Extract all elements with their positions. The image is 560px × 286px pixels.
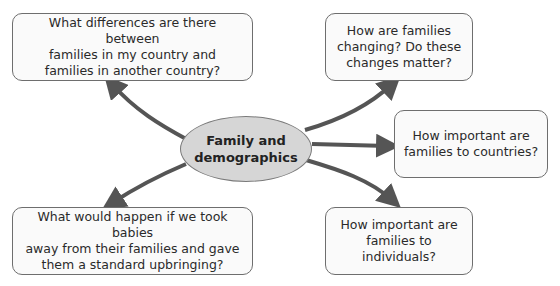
node-text-line: How important are: [334, 217, 464, 233]
node-text-line: changes matter?: [337, 55, 461, 71]
center-label-line2: demographics: [194, 149, 298, 166]
node-top-left: What differences are there between famil…: [12, 13, 253, 81]
node-text-line: What differences are there between: [21, 15, 244, 47]
node-text-line: families in another country?: [21, 63, 244, 79]
node-text-line: How are families: [337, 23, 461, 39]
arrow-to-bottom-right: [306, 160, 392, 200]
arrow-to-bottom-left: [112, 164, 186, 203]
node-text-line: families to individuals?: [334, 233, 464, 265]
node-text-line: away from their families and gave: [21, 241, 244, 257]
node-text-line: them a standard upbringing?: [21, 257, 244, 273]
node-middle-right: How important are families to countries?: [394, 110, 548, 178]
arrow-to-top-right: [305, 84, 392, 130]
node-top-right: How are families changing? Do these chan…: [325, 13, 473, 81]
node-bottom-left: What would happen if we took babies away…: [12, 207, 253, 275]
arrow-to-middle-right: [312, 144, 388, 146]
node-text-line: families in my country and: [21, 47, 244, 63]
node-text-line: What would happen if we took babies: [21, 209, 244, 241]
node-text-line: How important are: [404, 128, 538, 144]
center-label-line1: Family and: [206, 132, 286, 149]
node-text-line: changing? Do these: [337, 39, 461, 55]
node-bottom-right: How important are families to individual…: [325, 207, 473, 275]
center-node: Family and demographics: [180, 116, 312, 182]
node-text-line: families to countries?: [404, 144, 538, 160]
arrow-to-top-left: [112, 84, 188, 140]
